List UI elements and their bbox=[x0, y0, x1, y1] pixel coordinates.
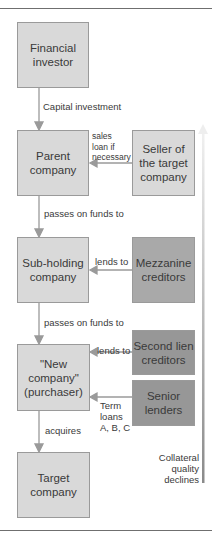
passes-on-funds-label-1: passes on funds to bbox=[44, 208, 124, 219]
senior-lenders-box: Senior lenders bbox=[132, 380, 195, 426]
financial-investor-box: Financial investor bbox=[17, 22, 89, 88]
financial-investor-label: Financial investor bbox=[30, 41, 76, 69]
senior-lenders-label: Senior lenders bbox=[145, 389, 183, 417]
sub-holding-box: Sub-holding company bbox=[17, 237, 89, 303]
parent-company-label: Parent company bbox=[30, 149, 77, 177]
second-lien-box: Second lien creditors bbox=[132, 330, 195, 375]
collateral-quality-label: Collateral quality declines bbox=[150, 452, 199, 485]
seller-label: Seller of the target company bbox=[139, 142, 188, 184]
target-company-label: Target company bbox=[30, 471, 77, 499]
sales-loan-label: sales loan if necessary bbox=[92, 131, 131, 163]
acquires-label: acquires bbox=[45, 425, 81, 436]
parent-company-box: Parent company bbox=[17, 130, 89, 196]
passes-on-funds-label-2: passes on funds to bbox=[44, 317, 124, 328]
new-company-label: "New company" (purchaser) bbox=[24, 357, 83, 399]
lends-to-second-lien-label: lends to bbox=[97, 345, 130, 356]
lends-to-mezzanine-label: lends to bbox=[95, 256, 128, 267]
mezzanine-box: Mezzanine creditors bbox=[132, 237, 195, 303]
term-loans-label: Term loans A, B, C bbox=[100, 400, 130, 433]
sub-holding-label: Sub-holding company bbox=[22, 256, 83, 284]
second-lien-label: Second lien creditors bbox=[133, 339, 193, 367]
capital-investment-label: Capital investment bbox=[43, 101, 121, 112]
target-company-box: Target company bbox=[17, 452, 90, 518]
mezzanine-label: Mezzanine creditors bbox=[136, 256, 192, 284]
seller-box: Seller of the target company bbox=[132, 130, 195, 196]
new-company-box: "New company" (purchaser) bbox=[17, 344, 90, 411]
